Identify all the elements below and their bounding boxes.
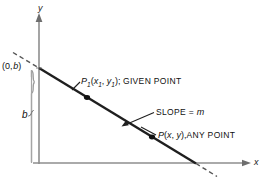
figure-canvas: y x (0, b) b P1(x1, y1); GIVEN POINT SLO… (0, 0, 266, 196)
p1-paren-close: ); (115, 76, 121, 86)
brace-b-vertical (29, 70, 34, 163)
point-marker-p (149, 135, 155, 140)
point-marker-p1 (84, 95, 90, 100)
y-axis-label: y (38, 4, 43, 13)
y-axis (36, 13, 43, 164)
x-axis (33, 160, 251, 166)
leader-slope (122, 113, 155, 127)
line-extension-lower (196, 164, 217, 177)
point-p-label: P(x, y),ANY POINT (158, 131, 235, 140)
diagram-svg (0, 0, 266, 196)
x-axis-label: x (254, 158, 259, 167)
p1-caption: GIVEN POINT (123, 76, 182, 86)
slope-m-symbol: m (197, 107, 205, 117)
slope-label: SLOPE = m (156, 108, 204, 117)
point-p1-label: P1(x1, y1); GIVEN POINT (81, 77, 182, 88)
brace-b-label: b (22, 110, 28, 120)
slope-text: SLOPE = (156, 107, 197, 117)
leader-p1 (72, 82, 80, 90)
p-caption: ANY POINT (187, 130, 236, 140)
intercept-b-symbol: b (13, 61, 18, 71)
y-intercept-label: (0, b) (2, 62, 21, 71)
